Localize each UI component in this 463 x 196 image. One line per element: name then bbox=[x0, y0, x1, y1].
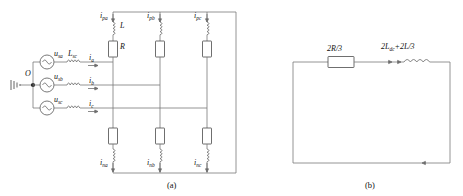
loop-current-arrow-after-resistor bbox=[389, 60, 392, 63]
loop-outline bbox=[293, 57, 450, 164]
figure-root: O usa usb usc Lsc ia ib ic ipa ipb ipc L… bbox=[0, 0, 463, 196]
panel-b-schematic bbox=[0, 0, 463, 196]
loop-resistor-label: 2R/3 bbox=[327, 45, 342, 53]
loop-current-arrow-top bbox=[398, 60, 401, 63]
loop-current-arrow-bottom bbox=[422, 161, 425, 164]
panel-b-caption: (b) bbox=[365, 180, 375, 190]
loop-inductor-label: 2Ldc+2L/3 bbox=[381, 43, 415, 51]
